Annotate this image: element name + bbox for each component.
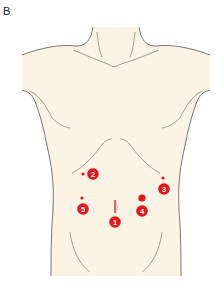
port-3-site-dot (161, 176, 164, 179)
port-3-number: 3 (162, 185, 166, 194)
port-4-site-dot (138, 194, 145, 201)
port-2-site-dot (81, 172, 84, 175)
port-5-site-dot (80, 196, 83, 199)
port-5-number: 5 (81, 205, 85, 214)
torso-skin-fill (22, 27, 210, 276)
port-2-number: 2 (91, 170, 95, 179)
torso-diagram: 1 2 3 4 5 (0, 0, 224, 290)
port-1-number: 1 (113, 218, 117, 227)
